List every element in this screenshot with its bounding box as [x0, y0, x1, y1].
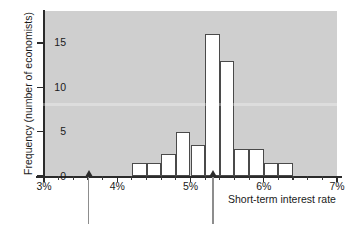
x-minor-tick-mark [205, 176, 206, 180]
x-minor-tick-mark [249, 176, 250, 180]
x-minor-tick-mark [292, 176, 293, 180]
x-minor-tick-mark [219, 176, 220, 180]
histogram-bar [249, 149, 264, 176]
x-minor-tick-mark [161, 176, 162, 180]
histogram-bar [132, 163, 147, 176]
arrow-head-icon [209, 170, 217, 177]
x-minor-tick-mark [322, 176, 323, 180]
x-tick-label: 7% [317, 181, 357, 192]
histogram-bar [234, 149, 249, 176]
x-tick-label: 4% [97, 181, 137, 192]
x-tick-label: 5% [171, 181, 211, 192]
histogram-bar [278, 163, 293, 176]
histogram-bar [205, 34, 220, 176]
x-axis-title: Short-term interest rate [228, 194, 336, 205]
y-tick-label: 15 [38, 37, 66, 47]
x-minor-tick-mark [73, 176, 74, 180]
histogram-bar [264, 163, 279, 176]
histogram-bar [220, 61, 235, 176]
y-axis-line [43, 10, 45, 177]
histogram-bar [161, 154, 176, 176]
x-minor-tick-mark [58, 176, 59, 180]
x-minor-tick-mark [102, 176, 103, 180]
x-minor-tick-mark [131, 176, 132, 180]
x-minor-tick-mark [307, 176, 308, 180]
arrow-head-icon [85, 170, 93, 177]
histogram-bar [147, 163, 162, 176]
x-minor-tick-mark [234, 176, 235, 180]
x-minor-tick-mark [278, 176, 279, 180]
arrow-shaft [212, 176, 214, 224]
histogram-bar [176, 132, 191, 176]
y-tick-label: 0 [38, 171, 66, 181]
arrow-shaft [88, 176, 90, 224]
y-tick-label: 10 [38, 82, 66, 92]
y-axis-title: Frequency (number of economists) [23, 4, 34, 184]
histogram-bar [191, 145, 206, 176]
y-tick-label: 5 [38, 126, 66, 136]
x-minor-tick-mark [175, 176, 176, 180]
histogram-figure: 051015 3%4%5%6%7% Frequency (number of e… [0, 0, 358, 227]
histogram-bars [44, 11, 337, 176]
x-minor-tick-mark [146, 176, 147, 180]
x-tick-label: 6% [244, 181, 284, 192]
